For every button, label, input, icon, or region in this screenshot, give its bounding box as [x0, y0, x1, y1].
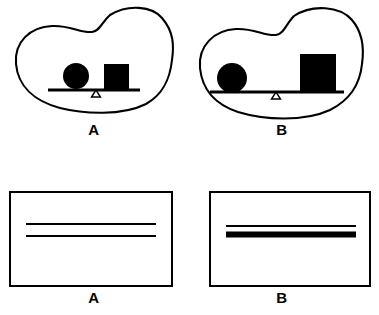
panel-label-blob-b: B	[192, 122, 372, 137]
square-weight-a	[104, 64, 129, 89]
panel-box-a: A	[4, 186, 184, 312]
panel-label-blob-a: A	[4, 122, 184, 137]
line-box-a-drawing	[4, 186, 184, 296]
panel-blob-a: A	[4, 2, 184, 142]
panel-blob-b: B	[192, 2, 372, 142]
figure-root: A B A B	[0, 0, 379, 315]
panel-label-box-a: A	[4, 290, 184, 305]
circle-weight-a	[63, 63, 89, 89]
panel-label-box-b: B	[192, 290, 372, 305]
circle-weight-b	[217, 63, 247, 93]
box-outline-b	[210, 192, 370, 286]
square-weight-b	[300, 54, 336, 91]
box-outline-a	[10, 192, 172, 286]
blob-outline-b	[200, 8, 363, 118]
line-box-b-drawing	[192, 186, 372, 296]
panel-box-b: B	[192, 186, 372, 312]
